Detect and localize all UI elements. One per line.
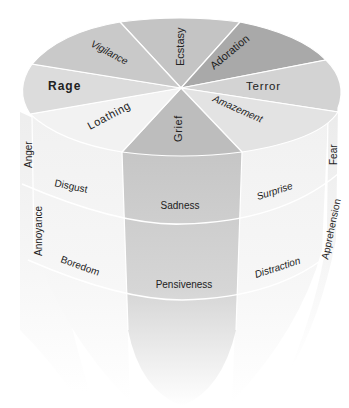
label-ecstasy: Ecstasy — [174, 27, 186, 66]
label-sadness: Sadness — [161, 200, 200, 211]
label-rage: Rage — [48, 79, 81, 93]
label-terror: Terror — [246, 80, 281, 92]
label-grief: Grief — [172, 115, 184, 142]
emotion-cylinder-diagram: Ecstasy Adoration Terror Amazement Grief… — [0, 0, 349, 408]
label-annoyance: Annoyance — [33, 206, 44, 256]
label-pensiveness: Pensiveness — [156, 279, 213, 290]
label-anger: Anger — [23, 141, 34, 168]
label-fear: Fear — [328, 144, 339, 165]
